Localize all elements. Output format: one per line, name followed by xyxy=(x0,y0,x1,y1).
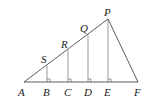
label-C: C xyxy=(64,86,72,98)
segment-PF xyxy=(108,19,138,82)
label-D: D xyxy=(83,86,92,98)
diagram-canvas: A B C D E F S R Q P xyxy=(0,0,154,110)
right-angle-B xyxy=(47,79,50,82)
label-A: A xyxy=(17,86,25,98)
label-E: E xyxy=(103,86,111,98)
right-angle-E xyxy=(108,79,111,82)
label-Q: Q xyxy=(80,22,88,34)
label-R: R xyxy=(60,38,68,50)
right-angle-C xyxy=(68,79,71,82)
label-S: S xyxy=(41,53,47,65)
label-P: P xyxy=(103,6,111,18)
segment-AP xyxy=(24,19,108,82)
geometry-diagram: A B C D E F S R Q P xyxy=(0,0,154,110)
right-angle-D xyxy=(88,79,91,82)
label-B: B xyxy=(43,86,50,98)
label-F: F xyxy=(133,86,141,98)
